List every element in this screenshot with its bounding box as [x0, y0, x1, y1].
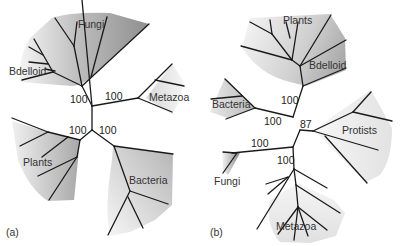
bootstrap-value-a-1: 100: [70, 93, 88, 105]
panel-b: Plants Bdelloid Bacteria Protists Fungi …: [210, 14, 392, 243]
clade-label-bdelloid-b: Bdelloid: [309, 59, 347, 71]
clade-label-protists-b: Protists: [342, 124, 377, 136]
clade-label-metazoa-a: Metazoa: [149, 91, 189, 103]
bootstrap-value-a-3: 100: [69, 124, 87, 136]
panel-label-b: (b): [210, 226, 223, 238]
clade-label-metazoa-b: Metazoa: [276, 220, 316, 232]
panel-label-a: (a): [6, 226, 19, 238]
clade-label-bdelloid-a: Bdelloid: [9, 65, 47, 77]
bootstrap-value-b-4: 100: [251, 137, 269, 149]
clade-label-plants-a: Plants: [23, 156, 52, 168]
clade-label-fungi-a: Fungi: [78, 18, 104, 30]
clade-label-fungi-b: Fungi: [214, 175, 240, 187]
bootstrap-value-b-5: 100: [277, 154, 295, 166]
bootstrap-value-a-2: 100: [105, 90, 123, 102]
bootstrap-value-b-2: 100: [264, 115, 282, 127]
clade-label-bacteria-b: Bacteria: [212, 98, 251, 110]
bootstrap-value-b-3: 87: [300, 118, 312, 130]
phylogeny-figure: Fungi Bdelloid Metazoa Plants Bacteria 1…: [0, 0, 400, 246]
clade-label-bacteria-a: Bacteria: [129, 174, 168, 186]
clade-label-plants-b: Plants: [283, 14, 312, 26]
bootstrap-value-b-1: 100: [281, 94, 299, 106]
bootstrap-value-a-4: 100: [99, 124, 117, 136]
panel-a: Fungi Bdelloid Metazoa Plants Bacteria 1…: [6, 0, 189, 238]
